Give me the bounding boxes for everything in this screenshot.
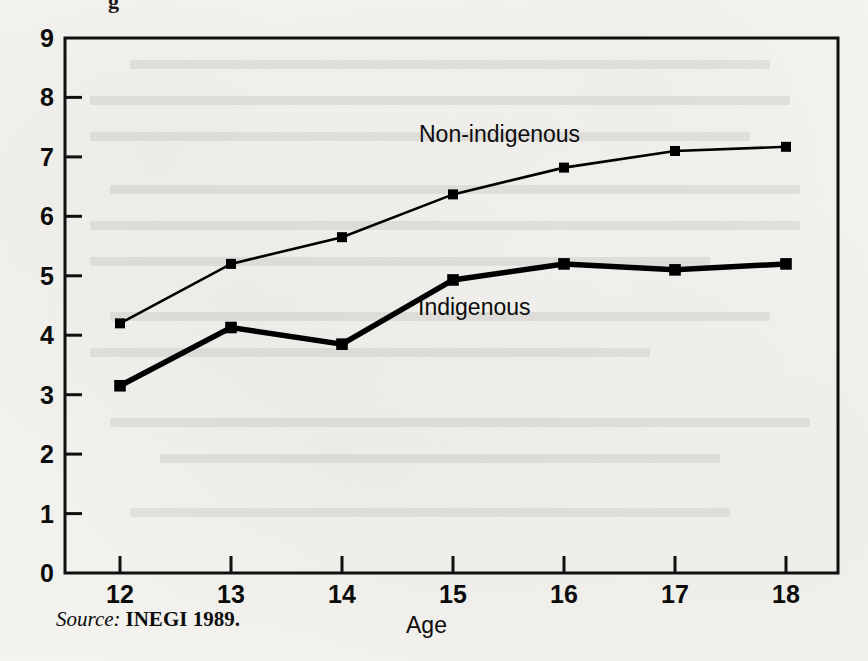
x-tick-label-16: 16 [532, 580, 596, 609]
series-label-non-indigenous: Non-indigenous [419, 121, 580, 148]
data-point-marker [781, 142, 791, 152]
source-note: Source:INEGI 1989. [56, 607, 240, 632]
y-tick-label-5: 5 [18, 262, 54, 291]
x-tick-label-13: 13 [199, 580, 263, 609]
y-tick-label-7: 7 [18, 143, 54, 172]
data-point-marker [115, 318, 125, 328]
data-point-marker [226, 259, 236, 269]
y-tick-label-4: 4 [18, 321, 54, 350]
source-label: Source: [56, 607, 121, 631]
data-point-marker [780, 258, 792, 270]
y-tick-label-0: 0 [18, 559, 54, 588]
x-axis-title: Age [406, 612, 447, 639]
data-point-marker [448, 189, 458, 199]
y-tick-label-2: 2 [18, 440, 54, 469]
y-tick-label-8: 8 [18, 83, 54, 112]
x-tick-label-17: 17 [643, 580, 707, 609]
x-axis-ticks [120, 556, 786, 573]
series-label-indigenous: Indigenous [418, 294, 531, 321]
data-point-marker [225, 322, 237, 334]
source-reference: INEGI 1989. [126, 607, 240, 631]
series-indigenous [114, 258, 792, 391]
data-point-marker [669, 264, 681, 276]
data-point-marker [670, 146, 680, 156]
x-tick-label-15: 15 [421, 580, 485, 609]
data-point-marker [559, 163, 569, 173]
x-tick-label-14: 14 [310, 580, 374, 609]
y-tick-label-3: 3 [18, 381, 54, 410]
data-point-marker [447, 274, 459, 286]
y-axis-ticks [65, 97, 82, 513]
clipped-title-fragment: g [108, 0, 119, 14]
data-point-marker [114, 380, 126, 392]
x-tick-label-18: 18 [754, 580, 818, 609]
data-point-marker [558, 258, 570, 270]
y-tick-label-9: 9 [18, 24, 54, 53]
figure-line-chart: g [0, 0, 868, 661]
chart-canvas [0, 0, 868, 661]
y-tick-label-1: 1 [18, 500, 54, 529]
data-point-marker [337, 232, 347, 242]
data-point-marker [336, 338, 348, 350]
y-tick-label-6: 6 [18, 202, 54, 231]
x-tick-label-12: 12 [88, 580, 152, 609]
